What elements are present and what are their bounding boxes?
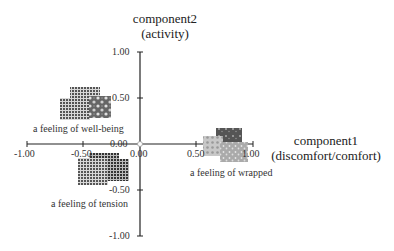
x-tick-label: -1.00 — [14, 148, 35, 159]
x-axis-title-line1: component1 — [258, 133, 394, 148]
x-tick-label: 0.50 — [187, 148, 205, 159]
cluster-label-wrapped: a feeling of wrapped — [190, 167, 272, 178]
y-tick-label: 0.50 — [112, 92, 130, 103]
cluster-label-well-being: a feeling of well-being — [33, 123, 124, 134]
x-tick-label: 0.00 — [110, 138, 128, 149]
y-axis-title-line2: (activity) — [110, 26, 220, 41]
x-tick-label: 1.00 — [242, 148, 260, 159]
y-tick-label: 1.00 — [112, 46, 130, 57]
x-tick-label: -0.50 — [71, 148, 92, 159]
x-axis-title-line2: (discomfort/comfort) — [258, 148, 394, 163]
cluster-label-tension: a feeling of tension — [51, 198, 128, 209]
cluster-well-being-swatches — [60, 87, 111, 120]
x-axis-title: component1 (discomfort/comfort) — [258, 133, 394, 163]
y-tick-label: -0.50 — [109, 184, 130, 195]
y-axis — [137, 52, 143, 236]
x-tick-label: 0.00 — [130, 148, 148, 159]
y-tick-label: -1.00 — [109, 230, 130, 241]
y-axis-title: component2 (activity) — [110, 11, 220, 41]
y-axis-title-line1: component2 — [110, 11, 220, 26]
